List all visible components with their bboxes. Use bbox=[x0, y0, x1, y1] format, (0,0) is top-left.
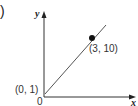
y-axis-label: y bbox=[34, 8, 40, 19]
origin-label: 0 bbox=[37, 96, 43, 106]
data-point-marker bbox=[89, 35, 95, 41]
point-label-3-10: (3, 10) bbox=[89, 43, 118, 54]
point-label-0-1: (0, 1) bbox=[15, 84, 38, 95]
part-label-fragment: ) bbox=[0, 3, 5, 19]
data-line bbox=[45, 25, 106, 94]
y-axis-arrow-icon bbox=[42, 11, 47, 18]
chart: ) y x 0 (3, 10) (0, 1) bbox=[0, 0, 138, 106]
x-axis-label: x bbox=[130, 97, 136, 106]
